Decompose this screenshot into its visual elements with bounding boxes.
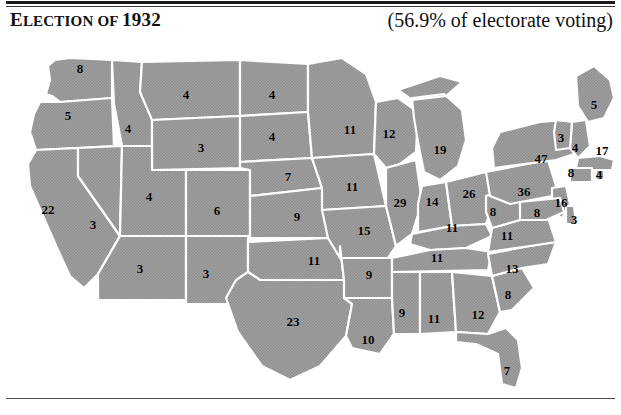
ev-label-OK: 11: [308, 254, 320, 267]
us-map-svg: [0, 36, 621, 394]
ev-label-DE: 3: [571, 213, 578, 226]
ev-label-MA: 17: [596, 144, 609, 157]
ev-label-NM: 3: [203, 267, 210, 280]
ev-label-PA: 36: [518, 185, 531, 198]
state-SD[interactable]: [240, 112, 312, 162]
ev-label-MN: 11: [344, 123, 356, 136]
ev-label-RI: 4: [596, 168, 603, 181]
ev-label-MO: 15: [358, 224, 371, 237]
ev-label-NH: 4: [572, 141, 579, 154]
state-WY[interactable]: [152, 116, 240, 170]
ev-label-KS: 9: [294, 210, 301, 223]
state-shapes: [28, 58, 614, 388]
ev-label-OH: 26: [463, 187, 476, 200]
ev-label-TX: 23: [287, 315, 300, 328]
ev-label-MI: 19: [434, 143, 447, 156]
ev-label-KY: 11: [446, 221, 458, 234]
ev-label-CA: 22: [42, 203, 55, 216]
ev-label-UT: 4: [146, 190, 153, 203]
state-ME[interactable]: [576, 66, 614, 122]
ev-label-MT: 4: [183, 88, 190, 101]
ev-label-VT: 3: [558, 131, 565, 144]
ev-label-SD: 4: [269, 130, 276, 143]
state-MS[interactable]: [392, 272, 420, 334]
ev-label-ID: 4: [125, 122, 132, 135]
page-title: ELECTION OF 1932: [10, 9, 161, 31]
ev-label-AR: 9: [366, 268, 373, 281]
ev-label-IA: 11: [346, 180, 358, 193]
ev-label-TN: 11: [431, 251, 443, 264]
state-MN[interactable]: [308, 58, 376, 158]
ev-label-WV: 8: [490, 205, 497, 218]
electoral-map: 8522344343364479112311111591012291914261…: [0, 36, 621, 394]
state-OK[interactable]: [248, 238, 344, 280]
ev-label-OR: 5: [65, 109, 72, 122]
title-lead-cap: E: [10, 9, 23, 30]
state-FL[interactable]: [456, 328, 522, 388]
ev-label-ND: 4: [269, 88, 276, 101]
turnout-note: (56.9% of electorate voting): [388, 9, 613, 32]
ev-label-ME: 5: [591, 98, 598, 111]
ev-label-IL: 29: [394, 196, 407, 209]
ev-label-WI: 12: [383, 127, 396, 140]
header: ELECTION OF 1932 (56.9% of electorate vo…: [0, 9, 621, 35]
ev-label-CT: 8: [568, 166, 575, 179]
ev-label-AZ: 3: [137, 262, 144, 275]
ev-label-NC: 13: [506, 262, 519, 275]
ev-label-FL: 7: [504, 364, 511, 377]
state-WI[interactable]: [374, 98, 418, 168]
ev-label-CO: 6: [214, 204, 221, 217]
title-year: 1932: [122, 9, 161, 30]
ev-label-AL: 11: [428, 312, 440, 325]
title-small-caps: LECTION OF: [23, 13, 122, 29]
ev-label-WY: 3: [198, 141, 205, 154]
ev-label-NV: 3: [90, 218, 97, 231]
ev-label-GA: 12: [472, 308, 485, 321]
header-rule-thin: [6, 6, 615, 7]
state-OR[interactable]: [30, 98, 114, 150]
ev-label-IN: 14: [426, 195, 439, 208]
ev-label-WA: 8: [77, 62, 84, 75]
header-rule-thick: [6, 1, 615, 4]
footer-rule: [6, 398, 615, 399]
ev-label-MS: 9: [399, 306, 406, 319]
ev-label-VA: 11: [501, 229, 513, 242]
ev-label-MD: 8: [534, 206, 541, 219]
ev-label-NE: 7: [285, 170, 292, 183]
state-MT[interactable]: [140, 60, 240, 120]
ev-label-NJ: 16: [555, 196, 568, 209]
ev-label-NY: 47: [535, 152, 548, 165]
ev-label-LA: 10: [362, 333, 375, 346]
ev-label-SC: 8: [505, 288, 512, 301]
state-KS[interactable]: [250, 188, 328, 238]
